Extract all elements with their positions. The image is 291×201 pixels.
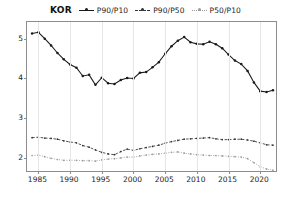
data-point xyxy=(177,151,179,153)
data-point xyxy=(266,168,268,170)
legend-title: KOR xyxy=(50,5,72,15)
x-gridline xyxy=(165,22,166,171)
data-point xyxy=(31,137,33,139)
data-point xyxy=(234,59,237,62)
data-point xyxy=(57,159,59,161)
legend-label-p90p50: P90/P50 xyxy=(153,6,184,15)
data-point xyxy=(272,89,275,92)
data-point xyxy=(190,153,192,155)
data-point xyxy=(31,32,34,35)
data-point xyxy=(240,138,242,140)
data-point xyxy=(152,146,154,148)
data-point xyxy=(183,152,185,154)
data-point xyxy=(63,140,65,142)
data-point xyxy=(82,145,84,147)
data-point xyxy=(158,153,160,155)
y-tick xyxy=(24,118,27,119)
y-tick xyxy=(24,78,27,79)
series-canvas xyxy=(27,22,278,173)
x-tick-label: 1990 xyxy=(52,175,86,184)
x-gridline xyxy=(197,22,198,171)
x-tick xyxy=(229,171,230,174)
plot-area xyxy=(26,21,277,172)
data-point xyxy=(120,79,123,82)
data-point xyxy=(50,157,52,159)
data-point xyxy=(151,66,154,69)
data-point xyxy=(113,83,116,86)
data-point xyxy=(209,137,211,139)
data-point xyxy=(44,137,46,139)
data-point xyxy=(171,151,173,153)
data-point xyxy=(76,159,78,161)
x-tick xyxy=(260,171,261,174)
data-point xyxy=(189,41,192,44)
data-point xyxy=(139,148,141,150)
data-point xyxy=(139,72,142,75)
data-point xyxy=(253,140,255,142)
data-point xyxy=(145,71,148,74)
data-point xyxy=(50,44,53,47)
legend-label-p50p10: P50/P10 xyxy=(210,6,241,15)
data-point xyxy=(202,43,205,46)
x-tick-label: 1995 xyxy=(84,175,118,184)
data-point xyxy=(114,158,116,160)
data-point xyxy=(152,153,154,155)
data-point xyxy=(56,52,59,55)
x-tick-label: 2010 xyxy=(179,175,213,184)
legend-label-p90p10: P90/P10 xyxy=(97,6,128,15)
x-tick xyxy=(102,171,103,174)
x-tick xyxy=(133,171,134,174)
legend-swatch-p90p50 xyxy=(135,6,150,14)
data-point xyxy=(183,138,185,140)
y-tick-label: 4 xyxy=(5,73,23,82)
data-point xyxy=(253,162,255,164)
data-point xyxy=(50,138,52,140)
x-gridline xyxy=(229,22,230,171)
data-point xyxy=(221,139,223,141)
x-tick xyxy=(165,171,166,174)
data-point xyxy=(82,160,84,162)
x-gridline xyxy=(133,22,134,171)
data-point xyxy=(126,156,128,158)
data-point xyxy=(63,159,65,161)
x-tick-label: 2005 xyxy=(147,175,181,184)
data-point xyxy=(221,47,224,50)
data-point xyxy=(95,160,97,162)
data-point xyxy=(240,63,243,65)
y-tick-label: 2 xyxy=(5,152,23,161)
y-tick-label: 3 xyxy=(5,113,23,122)
data-point xyxy=(75,66,78,69)
chart-figure: KOR P90/P10 P90/P50 P50/P10 198519901995… xyxy=(0,0,291,201)
y-tick xyxy=(24,158,27,159)
data-point xyxy=(240,156,242,158)
x-tick-label: 2020 xyxy=(242,175,276,184)
series-line-p90-p10 xyxy=(32,32,273,92)
data-point xyxy=(88,74,91,77)
data-point xyxy=(247,158,249,160)
x-tick xyxy=(197,171,198,174)
data-point xyxy=(139,155,141,157)
data-point xyxy=(95,149,97,151)
data-point xyxy=(253,81,256,84)
data-point xyxy=(265,91,268,94)
data-point xyxy=(202,137,204,139)
data-point xyxy=(221,155,223,157)
data-point xyxy=(246,70,249,73)
data-point xyxy=(31,155,33,157)
x-gridline xyxy=(70,22,71,171)
x-gridline xyxy=(38,22,39,171)
data-point xyxy=(158,144,160,146)
data-point xyxy=(266,144,268,146)
data-point xyxy=(170,45,173,48)
data-point xyxy=(190,138,192,140)
data-point xyxy=(57,138,59,140)
data-point xyxy=(215,138,217,140)
data-point xyxy=(145,147,147,149)
data-point xyxy=(44,37,47,40)
data-point xyxy=(209,155,211,157)
x-gridline xyxy=(102,22,103,171)
legend-swatch-p50p10 xyxy=(192,6,207,14)
x-tick-label: 2015 xyxy=(211,175,245,184)
x-tick-label: 2000 xyxy=(115,175,149,184)
legend-item-p90p10: P90/P10 xyxy=(79,6,128,15)
